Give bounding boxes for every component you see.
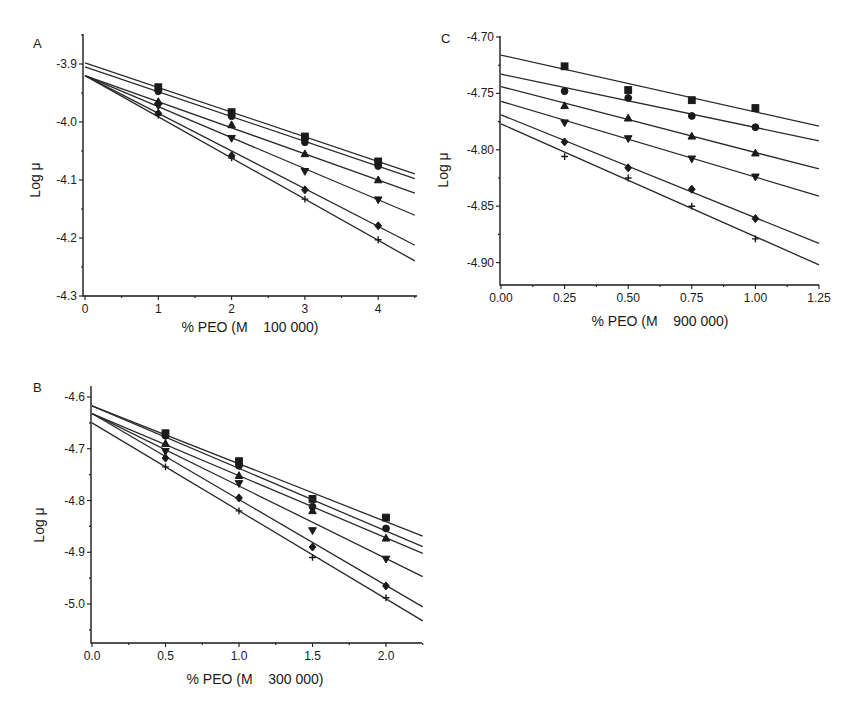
y-tick-label: -4.0 bbox=[56, 115, 77, 129]
fit-line-plus bbox=[92, 423, 423, 621]
x-tick-label: 1.0 bbox=[231, 649, 248, 663]
plus-marker-icon bbox=[162, 463, 169, 470]
y-tick-label: -4.9 bbox=[64, 545, 85, 559]
x-tick-label: 0.25 bbox=[553, 291, 577, 305]
x-axis-label: % PEO (M 100 000) bbox=[182, 319, 319, 335]
x-tick-label: 1.5 bbox=[304, 649, 321, 663]
y-tick-label: -4.80 bbox=[467, 143, 495, 157]
x-tick-label: 1 bbox=[155, 302, 162, 316]
diamond-marker-icon bbox=[383, 582, 390, 590]
x-tick-label: 4 bbox=[375, 302, 382, 316]
x-axis-label: % PEO (M 300 000) bbox=[187, 671, 324, 687]
x-tick-label: 1.00 bbox=[744, 291, 768, 305]
y-tick-label: -4.70 bbox=[467, 30, 495, 44]
x-tick-label: 0.00 bbox=[489, 291, 513, 305]
triangle-up-marker-icon bbox=[382, 534, 390, 541]
triangle-up-marker-icon bbox=[624, 114, 632, 121]
fit-line-circle bbox=[501, 74, 819, 141]
x-axis-label: % PEO (M 900 000) bbox=[592, 313, 729, 329]
circle-marker-icon bbox=[236, 462, 243, 469]
x-tick-label: 0.5 bbox=[157, 649, 174, 663]
fit-line-triangle-down bbox=[85, 76, 415, 216]
diamond-marker-icon bbox=[752, 215, 759, 223]
x-tick-label: 2.0 bbox=[378, 649, 395, 663]
square-marker-icon bbox=[752, 105, 759, 112]
axes-frame bbox=[83, 34, 417, 296]
fit-line-diamond bbox=[501, 115, 819, 244]
y-tick-label: -4.2 bbox=[56, 231, 77, 245]
y-tick-label: -4.7 bbox=[64, 442, 85, 456]
y-tick-label: -4.8 bbox=[64, 494, 85, 508]
triangle-down-marker-icon bbox=[309, 528, 317, 535]
circle-marker-icon bbox=[162, 432, 169, 439]
plus-marker-icon bbox=[625, 175, 632, 182]
panel-letter: A bbox=[33, 36, 42, 51]
x-tick-label: 0.50 bbox=[617, 291, 641, 305]
y-tick-label: -4.75 bbox=[467, 86, 495, 100]
triangle-down-marker-icon bbox=[301, 169, 309, 176]
diamond-marker-icon bbox=[688, 185, 695, 193]
y-tick-label: -4.3 bbox=[56, 289, 77, 303]
circle-marker-icon bbox=[688, 113, 695, 120]
fit-line-triangle-up bbox=[501, 87, 819, 169]
panel-letter: B bbox=[33, 380, 42, 395]
circle-marker-icon bbox=[625, 95, 632, 102]
square-marker-icon bbox=[625, 87, 632, 94]
figure-canvas: A-3.9-4.0-4.1-4.2-4.301234% PEO (M 100 0… bbox=[0, 0, 860, 715]
y-axis-label: Log μ bbox=[27, 162, 43, 197]
square-marker-icon bbox=[561, 63, 568, 70]
y-tick-label: -4.6 bbox=[64, 390, 85, 404]
circle-marker-icon bbox=[302, 139, 309, 146]
x-tick-label: 0.0 bbox=[84, 649, 101, 663]
fit-line-triangle-down bbox=[92, 414, 423, 577]
triangle-down-marker-icon bbox=[561, 120, 569, 127]
x-tick-label: 1.25 bbox=[807, 291, 831, 305]
x-tick-label: 0.75 bbox=[680, 291, 704, 305]
circle-marker-icon bbox=[375, 163, 382, 170]
plus-marker-icon bbox=[302, 196, 309, 203]
triangle-up-marker-icon bbox=[228, 121, 236, 128]
chart-panel-a: A-3.9-4.0-4.1-4.2-4.301234% PEO (M 100 0… bbox=[27, 34, 417, 335]
y-axis-label: Log μ bbox=[31, 507, 47, 542]
circle-marker-icon bbox=[228, 113, 235, 120]
x-tick-label: 2 bbox=[228, 302, 235, 316]
plus-marker-icon bbox=[752, 236, 759, 243]
fit-line-diamond bbox=[85, 76, 415, 246]
axes-frame bbox=[500, 36, 819, 285]
fit-line-triangle-up bbox=[92, 414, 423, 554]
y-tick-label: -4.1 bbox=[56, 173, 77, 187]
plus-marker-icon bbox=[688, 203, 695, 210]
x-tick-label: 0 bbox=[82, 302, 89, 316]
fit-line-plus bbox=[85, 76, 415, 261]
fit-line-square bbox=[85, 63, 415, 174]
fit-line-plus bbox=[501, 124, 819, 265]
y-axis-label: Log μ bbox=[435, 152, 451, 187]
fit-line-circle bbox=[85, 67, 415, 179]
circle-marker-icon bbox=[155, 88, 162, 95]
chart-panel-b: B-4.6-4.7-4.8-4.9-5.00.00.51.01.52.0% PE… bbox=[31, 380, 423, 687]
plus-marker-icon bbox=[236, 507, 243, 514]
circle-marker-icon bbox=[752, 124, 759, 131]
diamond-marker-icon bbox=[375, 222, 382, 230]
square-marker-icon bbox=[688, 97, 695, 104]
y-tick-label: -4.85 bbox=[467, 199, 495, 213]
fit-line-triangle-up bbox=[85, 76, 415, 193]
chart-panel-c: C-4.70-4.75-4.80-4.85-4.900.000.250.500.… bbox=[435, 30, 831, 329]
plus-marker-icon bbox=[309, 554, 316, 561]
fit-line-circle bbox=[92, 406, 423, 547]
x-tick-label: 3 bbox=[302, 302, 309, 316]
panel-letter: C bbox=[441, 31, 450, 46]
circle-marker-icon bbox=[561, 88, 568, 95]
y-tick-label: -5.0 bbox=[64, 597, 85, 611]
y-tick-label: -4.90 bbox=[467, 256, 495, 270]
plus-marker-icon bbox=[561, 153, 568, 160]
y-tick-label: -3.9 bbox=[56, 57, 77, 71]
square-marker-icon bbox=[383, 514, 390, 521]
fit-line-diamond bbox=[92, 414, 423, 607]
circle-marker-icon bbox=[383, 525, 390, 532]
fit-line-square bbox=[92, 406, 423, 536]
triangle-down-marker-icon bbox=[624, 136, 632, 143]
